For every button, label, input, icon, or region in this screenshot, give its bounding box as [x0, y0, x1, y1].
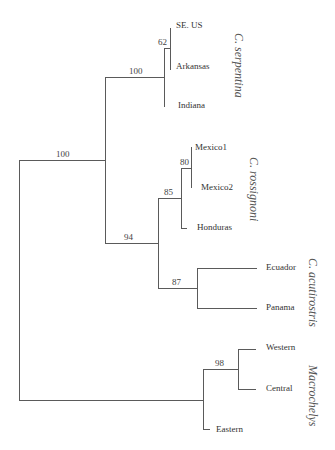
tip-label: Mexico2 [201, 182, 233, 192]
tip-label: Mexico1 [195, 142, 227, 152]
tip-label: Panama [266, 302, 295, 312]
tip-label: Indiana [178, 100, 205, 110]
tip-label: Ecuador [266, 262, 296, 272]
tip-label: Eastern [216, 424, 243, 434]
support-value: 100 [56, 149, 70, 159]
tip-label: Western [266, 342, 296, 352]
tip-label: SE. US [176, 20, 203, 30]
support-value: 98 [215, 358, 225, 368]
support-value: 87 [172, 277, 182, 287]
support-value: 94 [124, 232, 134, 242]
phylogenetic-tree: SE. US Arkansas Indiana Mexico1 Mexico2 … [0, 0, 335, 450]
clade-label-acutirostris: C. acutirostris [306, 258, 320, 327]
clade-label-macrochelys: Macrochelys [306, 364, 320, 427]
tip-label: Arkansas [176, 61, 210, 71]
support-value: 80 [180, 157, 190, 167]
support-value: 62 [158, 37, 167, 47]
tip-label: Central [266, 383, 293, 393]
support-value: 85 [164, 187, 174, 197]
clade-label-serpentina: C. serpentina [232, 33, 246, 98]
tip-label: Honduras [197, 222, 232, 232]
support-value: 100 [129, 66, 143, 76]
clade-label-rossignoni: C. rossignoni [247, 157, 261, 221]
